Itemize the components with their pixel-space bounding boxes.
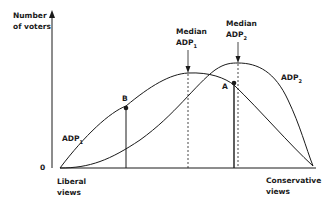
median-adp2-label-line2: ADP2 [226,30,247,43]
x-axis-right-label-line1: Conservative [266,176,321,186]
adp2-curve [60,63,313,168]
y-axis-label-line2: of voters [13,22,51,32]
median-adp1-label-line2: ADP1 [176,38,197,51]
y-axis-label-line1: Number [13,11,47,21]
origin-label: 0 [40,163,45,173]
adp1-label: ADP1 [62,134,83,147]
point-a [232,81,237,86]
x-axis-right-label-line2: views [266,187,290,197]
x-axis-left-label-line1: Liberal [57,177,86,187]
median-adp1-label-line1: Median [176,27,207,37]
y-axis-arrow-icon [49,10,55,18]
adp1-curve [60,73,313,168]
adp2-label: ADP2 [281,73,302,86]
median-adp2-label-line1: Median [226,19,257,29]
point-b [124,106,129,111]
point-b-label: B [122,94,128,104]
x-axis-left-label-line2: views [57,188,81,198]
median-adp2-arrow-icon [236,56,241,63]
median-adp1-arrow-icon [186,66,191,73]
point-a-label: A [222,82,228,92]
